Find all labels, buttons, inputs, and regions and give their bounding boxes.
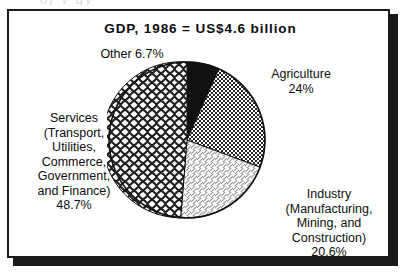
chart-title: GDP, 1986 = US$4.6 billion: [9, 21, 392, 36]
pie-label-services-line2: (Transport,: [13, 126, 135, 141]
pie-label-other-text: Other 6.7%: [9, 47, 255, 62]
pie-label-services-line3: Utilities,: [13, 140, 135, 155]
pie-label-industry-line1: Industry: [261, 187, 397, 202]
pie-label-services: Services (Transport, Utilities, Commerce…: [13, 111, 135, 213]
pie-label-industry-line3: Mining, and: [261, 216, 397, 231]
pie-label-services-line4: Commerce,: [13, 155, 135, 170]
pie-label-industry-percent: 20.6%: [261, 245, 397, 260]
pie-label-industry: Industry (Manufacturing, Mining, and Con…: [261, 187, 397, 260]
pie-label-services-line1: Services: [13, 111, 135, 126]
pie-label-services-percent: 48.7%: [13, 198, 135, 213]
scan-artifact-text: of y gy: [40, 0, 340, 5]
pie-label-industry-line2: (Manufacturing,: [261, 202, 397, 217]
figure-frame: GDP, 1986 = US$4.6 billion: [7, 9, 390, 258]
pie-label-agriculture-percent: 24%: [241, 82, 361, 97]
pie-label-agriculture-name: Agriculture: [241, 67, 361, 82]
pie-label-industry-line4: Construction): [261, 231, 397, 246]
pie-label-services-line6: and Finance): [13, 184, 135, 199]
pie-label-services-line5: Government,: [13, 169, 135, 184]
pie-label-other: Other 6.7%: [9, 47, 255, 62]
pie-label-agriculture: Agriculture 24%: [241, 67, 361, 96]
